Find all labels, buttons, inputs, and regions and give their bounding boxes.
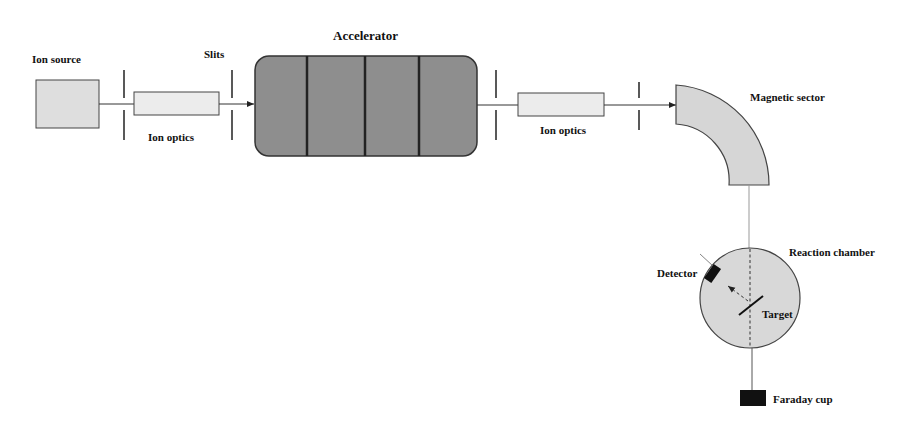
ion-optics-2 — [518, 93, 604, 116]
accelerator-label: Accelerator — [333, 28, 398, 43]
ion-optics-1 — [134, 92, 219, 115]
magnetic-sector-label: Magnetic sector — [750, 91, 825, 103]
reaction-chamber-label: Reaction chamber — [789, 246, 875, 258]
ion-source-label: Ion source — [32, 53, 81, 65]
reaction-chamber — [700, 248, 800, 348]
detector-label: Detector — [657, 267, 697, 279]
ion-optics-2-label: Ion optics — [540, 124, 587, 136]
ion-optics-1-label: Ion optics — [148, 131, 195, 143]
accelerator — [255, 56, 477, 156]
target-label: Target — [762, 308, 793, 320]
ion-source — [36, 80, 99, 128]
diagram-canvas: Ion source Ion optics Slits Accelerator … — [0, 0, 914, 427]
slits-label: Slits — [204, 48, 225, 60]
faraday-cup — [740, 390, 766, 406]
faraday-cup-label: Faraday cup — [773, 393, 833, 405]
